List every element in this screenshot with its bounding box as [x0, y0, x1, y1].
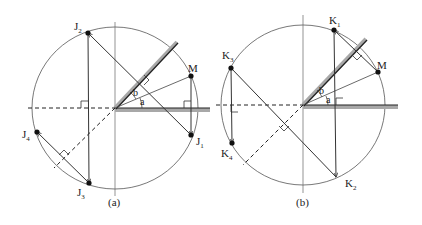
right-angle-mark	[81, 101, 88, 108]
panel-b: a b M K1 K2 K3 K4 (b)	[216, 14, 398, 209]
point-k3	[228, 65, 233, 70]
point-j2	[85, 30, 90, 35]
label-k2: K2	[345, 177, 357, 192]
angle-label-a: a	[326, 94, 331, 105]
label-j1: J1	[196, 135, 204, 150]
angle-label-b: b	[133, 87, 138, 98]
ray-m-b	[303, 72, 378, 105]
label-j3: J3	[77, 186, 85, 201]
panel-a: a b M J1 J2 J3 J4 (a)	[22, 20, 210, 209]
caption-b: (b)	[296, 196, 309, 209]
segment-j3-j4	[37, 132, 89, 183]
label-j2: J2	[74, 20, 82, 35]
label-m-a: M	[188, 62, 198, 74]
mirror-diagonal-edge-b	[304, 40, 367, 106]
dashed-diagonal-a	[54, 108, 115, 168]
ray-m-a	[115, 76, 191, 108]
mirror-reflection-diagram: a b M J1 J2 J3 J4 (a)	[0, 0, 422, 225]
label-m-b: M	[377, 59, 387, 71]
point-j3	[86, 180, 91, 185]
right-angle-mark	[184, 101, 191, 108]
mirror-diagonal-a	[115, 42, 177, 108]
point-k1	[331, 27, 336, 32]
label-k3: K3	[222, 49, 234, 64]
angle-label-a: a	[140, 96, 145, 107]
point-m	[188, 73, 193, 78]
label-k1: K1	[329, 14, 341, 29]
angle-label-b: b	[319, 85, 324, 96]
point-j4	[34, 129, 39, 134]
right-angle-mark	[336, 98, 343, 105]
label-k4: K4	[221, 147, 233, 162]
point-j1	[188, 132, 193, 137]
segment-j2-j3	[88, 33, 89, 183]
point-k4	[229, 140, 234, 145]
caption-a: (a)	[108, 196, 121, 209]
dashed-diagonal-b	[243, 105, 303, 165]
label-j4: J4	[22, 128, 30, 143]
mirror-diagonal-edge-a	[116, 43, 178, 109]
